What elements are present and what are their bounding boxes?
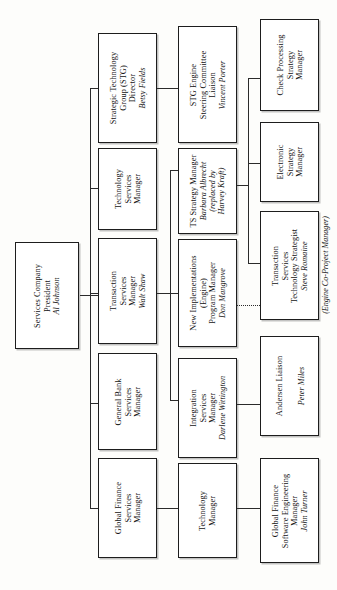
node-global-finance-services-manager-line-1: Global Finance (113, 482, 123, 534)
node-stg-director-line-1: Strategic Technology (108, 52, 118, 124)
edge-column2-bus (90, 88, 91, 508)
edge-bus-to-transaction-services-manager (90, 293, 98, 294)
edge-stg-director-to-steering-liaison (157, 88, 178, 89)
node-new-implementations-line-1: New Implementations (188, 255, 198, 330)
node-electronic-strategy-line-2: Strategy (285, 144, 295, 179)
edge-bus-to-ts-technology-strategist (248, 263, 260, 264)
node-transaction-services-technology-strategist[interactable]: Transaction Services Technology Strategi… (260, 211, 319, 320)
node-electronic-strategy-line-3: Manager (294, 144, 304, 179)
node-technology-manager-line-2: Manager (208, 490, 218, 530)
node-transaction-services-manager[interactable]: Transaction Services Manager Walt Shaw (98, 238, 157, 344)
node-ts-strategy-manager-person-note-2: Harvey Kraft) (217, 155, 226, 228)
node-gf-software-engineering-line-2: Software Engineering (280, 473, 290, 548)
node-general-bank-services-manager[interactable]: General Bank Services Manager (98, 353, 157, 450)
edge-bus-to-general-bank-services-manager (90, 403, 98, 404)
edge-technology-manager-to-gf-software-engineering (237, 508, 260, 509)
node-technology-services-manager-line-2: Services (123, 169, 133, 209)
edge-global-finance-to-technology-manager (157, 508, 178, 509)
node-new-implementations-line-2: (Engine) (198, 255, 208, 330)
node-stg-engine-steering-liaison-line-3: Liaison (208, 50, 218, 118)
node-electronic-strategy-manager-text: Electronic Strategy Manager (275, 144, 304, 179)
node-ts-strategy-manager-person-note-1: (replaced by (208, 155, 217, 228)
node-global-finance-services-manager-text: Global Finance Services Manager (113, 482, 142, 534)
node-ts-strategy-manager-text: TS Strategy Manager Barbara Albrecht (re… (189, 155, 227, 228)
node-president-line-1: Services Company (33, 263, 43, 327)
edge-bus-to-integration-services-manager (170, 400, 178, 401)
node-ts-technology-strategist-line-1: Transaction (270, 228, 280, 303)
node-electronic-strategy-line-1: Electronic (275, 144, 285, 179)
node-general-bank-services-manager-line-2: Services (123, 378, 133, 425)
node-integration-services-manager-line-1: Integration (188, 376, 198, 440)
node-new-implementations-person: Don Mangrove (217, 255, 226, 330)
node-check-processing-line-1: Check Processing (275, 35, 285, 96)
node-general-bank-services-manager-line-3: Manager (132, 378, 142, 425)
node-global-finance-software-engineering-manager-text: Global Finance Software Engineering Mana… (270, 473, 308, 548)
node-general-bank-services-manager-line-1: General Bank (113, 378, 123, 425)
node-check-processing-strategy-manager[interactable]: Check Processing Strategy Manager (260, 19, 319, 111)
node-new-implementations-line-3: Program Manager (208, 255, 218, 330)
node-check-processing-strategy-manager-text: Check Processing Strategy Manager (275, 35, 304, 96)
node-stg-director[interactable]: Strategic Technology Group (STG) Directo… (98, 33, 157, 143)
node-stg-engine-steering-liaison-line-2: Steering Committee (198, 50, 208, 118)
node-stg-engine-steering-liaison-text: STG Engine Steering Committee Liaison Vi… (188, 50, 226, 118)
node-ts-technology-strategist-line-3: Technology Strategist (290, 228, 300, 303)
node-transaction-services-manager-line-1: Transaction (108, 271, 118, 311)
node-transaction-services-manager-line-3: Manager (128, 271, 138, 311)
node-technology-manager[interactable]: Technology Manager (178, 463, 237, 558)
node-technology-services-manager-line-1: Technology (113, 169, 123, 209)
node-ts-strategy-manager-person: Barbara Albrecht (198, 155, 207, 228)
node-stg-director-line-3: Director (128, 52, 138, 124)
node-electronic-strategy-manager[interactable]: Electronic Strategy Manager (260, 122, 319, 202)
edge-bus-to-global-finance-services-manager (90, 508, 98, 509)
node-integration-services-manager-line-2: Services (198, 376, 208, 440)
node-integration-services-manager[interactable]: Integration Services Manager Darlene Wit… (178, 358, 237, 458)
edge-bus-to-technology-services-manager (90, 188, 98, 189)
node-stg-engine-steering-liaison-line-1: STG Engine (188, 50, 198, 118)
node-integration-services-manager-person: Darlene Wittington (217, 376, 226, 440)
node-andersen-liaison-text: Andersen Liaison Peter Miles (274, 356, 305, 416)
node-integration-services-manager-line-3: Manager (208, 376, 218, 440)
edge-bus-to-stg-director (90, 88, 98, 89)
node-andersen-liaison-person: Peter Miles (296, 356, 305, 416)
edge-bus-to-new-implementations (170, 293, 178, 294)
edge-bus-to-electronic-strategy (248, 163, 260, 164)
node-new-implementations-program-manager-text: New Implementations (Engine) Program Man… (188, 255, 226, 330)
node-transaction-services-technology-strategist-text: Transaction Services Technology Strategi… (270, 228, 308, 303)
edge-column4-top-bus (248, 78, 249, 263)
node-new-implementations-program-manager[interactable]: New Implementations (Engine) Program Man… (178, 239, 237, 347)
node-technology-services-manager[interactable]: Technology Services Manager (98, 148, 157, 230)
node-transaction-services-manager-line-2: Services (118, 271, 128, 311)
node-transaction-services-manager-person: Walt Shaw (137, 271, 146, 311)
node-general-bank-services-manager-text: General Bank Services Manager (113, 378, 142, 425)
node-transaction-services-manager-text: Transaction Services Manager Walt Shaw (108, 271, 146, 311)
node-gf-software-engineering-person: John Turner (299, 473, 308, 548)
node-ts-technology-strategist-line-2: Services (280, 228, 290, 303)
node-stg-engine-steering-liaison[interactable]: STG Engine Steering Committee Liaison Vi… (178, 26, 237, 143)
node-ts-strategy-manager-line-1: TS Strategy Manager (189, 155, 199, 228)
node-global-finance-services-manager-line-2: Services (123, 482, 133, 534)
node-gf-software-engineering-line-3: Manager (290, 473, 300, 548)
node-global-finance-services-manager-line-3: Manager (132, 482, 142, 534)
node-gf-software-engineering-line-1: Global Finance (270, 473, 280, 548)
node-stg-director-line-2: Group (STG) (118, 52, 128, 124)
node-president-person: Al Johnson (52, 263, 61, 327)
node-andersen-liaison-line-1: Andersen Liaison (274, 356, 284, 416)
node-andersen-liaison[interactable]: Andersen Liaison Peter Miles (260, 336, 319, 436)
node-global-finance-software-engineering-manager[interactable]: Global Finance Software Engineering Mana… (260, 458, 319, 563)
edge-column3-bus (170, 170, 171, 400)
node-ts-strategy-manager[interactable]: TS Strategy Manager Barbara Albrecht (re… (178, 148, 237, 234)
node-check-processing-line-2: Strategy (285, 35, 295, 96)
annotation-engine-co-project-manager: (Engine Co-Project Manager) (321, 200, 330, 330)
node-technology-manager-line-1: Technology (198, 490, 208, 530)
edge-president-to-bus (80, 295, 98, 296)
node-technology-services-manager-text: Technology Services Manager (113, 169, 142, 209)
node-president[interactable]: Services Company President Al Johnson (15, 242, 79, 349)
edge-steering-liaison-to-bus (237, 185, 248, 186)
node-stg-director-text: Strategic Technology Group (STG) Directo… (108, 52, 146, 124)
node-technology-services-manager-line-3: Manager (132, 169, 142, 209)
node-stg-engine-steering-liaison-person: Vincent Porter (217, 50, 226, 118)
node-check-processing-line-3: Manager (294, 35, 304, 96)
node-global-finance-services-manager[interactable]: Global Finance Services Manager (98, 458, 157, 558)
node-president-text: Services Company President Al Johnson (33, 263, 62, 327)
edge-integration-to-andersen-liaison (237, 404, 260, 405)
